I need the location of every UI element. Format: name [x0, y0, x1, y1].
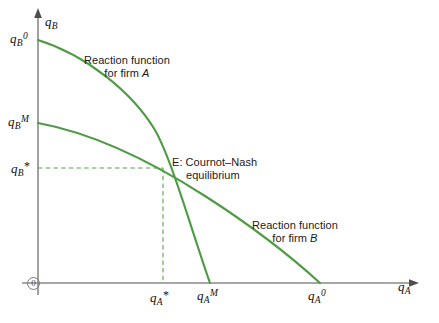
x-tick-label-qAstar: qA*	[150, 288, 169, 308]
y-tick-qBM-sub: B	[15, 121, 21, 131]
y-axis-label-sub: B	[52, 21, 58, 31]
x-tick-qAM-sub: A	[204, 295, 210, 305]
x-tick-qA0-main: q	[308, 288, 315, 303]
x-tick-qAstar-sup: *	[163, 288, 170, 302]
annotation-firm-a-firm-letter: A	[142, 67, 149, 79]
annotation-firm-a-line1: Reaction function	[84, 54, 170, 67]
x-tick-qAstar-sub: A	[157, 297, 163, 307]
y-tick-label-qBM: qBM	[8, 114, 29, 133]
y-tick-label-qB0: qB0	[10, 31, 28, 50]
annotation-firm-b-firm-letter: B	[310, 232, 317, 244]
x-tick-qAstar-main: q	[150, 290, 157, 305]
y-tick-qBM-main: q	[8, 114, 15, 129]
annotation-equilibrium-line1: E: Cournot–Nash	[172, 156, 257, 169]
annotation-equilibrium: E: Cournot–Nash equilibrium	[172, 156, 257, 183]
x-tick-label-qA0: qA0	[308, 288, 326, 307]
annotation-firm-b-line1: Reaction function	[252, 219, 338, 232]
origin-label: 0	[27, 277, 40, 290]
cournot-nash-diagram: qB qA 0 qB0 qBM qB* qA* qAM qA0 Reaction…	[0, 0, 439, 323]
annotation-firm-b-line2: for firm B	[252, 232, 338, 245]
x-tick-label-qAM: qAM	[197, 288, 218, 307]
x-tick-qA0-sup: 0	[321, 288, 326, 298]
x-axis-label: qA	[398, 279, 411, 298]
y-tick-label-qBstar: qB*	[11, 159, 30, 179]
reaction-function-curve-firm-b	[38, 123, 320, 283]
y-axis-label: qB	[45, 14, 58, 33]
x-axis-label-main: q	[398, 279, 405, 294]
y-tick-qBstar-sub: B	[18, 168, 24, 178]
y-tick-qBstar-main: q	[11, 161, 18, 176]
y-axis-label-main: q	[45, 14, 52, 29]
y-tick-qBM-sup: M	[21, 114, 30, 124]
equilibrium-guide-lines	[38, 168, 163, 283]
x-tick-qAM-sup: M	[210, 288, 219, 298]
origin-marker: 0	[27, 277, 40, 290]
y-axis-arrowhead	[34, 8, 42, 18]
annotation-firm-b-line2-prefix: for firm	[272, 232, 310, 244]
x-axis-label-sub: A	[405, 286, 411, 296]
annotation-firm-a-line2-prefix: for firm	[104, 67, 142, 79]
y-tick-qB0-sup: 0	[23, 31, 28, 41]
annotation-reaction-function-firm-a: Reaction function for firm A	[84, 54, 170, 81]
annotation-firm-a-line2: for firm A	[84, 67, 170, 80]
annotation-equilibrium-line2: equilibrium	[172, 169, 257, 182]
axes-group	[22, 8, 419, 295]
y-tick-qB0-sub: B	[17, 38, 23, 48]
y-tick-qBstar-sup: *	[24, 159, 31, 173]
x-tick-qA0-sub: A	[315, 295, 321, 305]
annotation-reaction-function-firm-b: Reaction function for firm B	[252, 219, 338, 246]
y-tick-qB0-main: q	[10, 31, 17, 46]
x-tick-qAM-main: q	[197, 288, 204, 303]
